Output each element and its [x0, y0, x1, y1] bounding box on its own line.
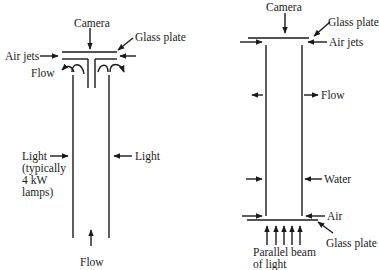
label-light-right: Light [135, 150, 160, 162]
label-flow-right: Flow [321, 89, 345, 101]
label-light-left: Light [22, 150, 47, 162]
label-flow-top-left: Flow [31, 67, 55, 79]
label-camera-right: Camera [266, 1, 302, 13]
label-air-jets-left: Air jets [5, 50, 39, 62]
label-of-light: of light [253, 258, 287, 270]
label-light-note-3: lamps) [22, 186, 53, 198]
label-glass-plate-bottom: Glass plate [326, 237, 377, 249]
label-glass-plate-left: Glass plate [135, 31, 186, 43]
diagram-drawing [0, 0, 379, 270]
left-apparatus [40, 28, 136, 246]
label-water: Water [324, 173, 351, 185]
label-air-jets-right: Air jets [329, 36, 363, 48]
label-light-note-2: 4 kW [22, 174, 47, 186]
label-flow-bottom: Flow [80, 256, 104, 268]
label-camera-left: Camera [74, 17, 110, 29]
right-apparatus [240, 13, 333, 245]
label-air: Air [327, 210, 342, 222]
label-light-note-1: (typically [22, 162, 66, 174]
label-parallel-beam: Parallel beam [253, 246, 316, 258]
label-glass-plate-top: Glass plate [328, 16, 379, 28]
